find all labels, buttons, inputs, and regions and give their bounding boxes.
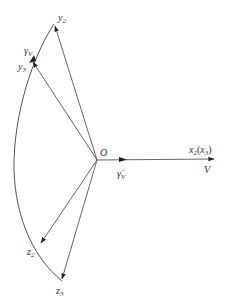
x2-x3-label: x2(x3) <box>188 144 212 157</box>
y3-label: y3 <box>17 61 26 74</box>
ray-z3 <box>62 160 97 279</box>
origin-label: O <box>100 147 107 158</box>
rotation-diagram: O y2 γV y3 z2 z3 x2(x3) V γ̇V <box>0 0 228 305</box>
ray-z2 <box>41 160 97 243</box>
ray-y2 <box>55 26 97 160</box>
ray-x2 <box>97 159 214 160</box>
angular-rate-arrow-icon <box>119 157 127 162</box>
y2-label: y2 <box>57 12 66 25</box>
z2-label: z2 <box>26 246 35 259</box>
gamma-dot-v-label: γ̇V <box>117 168 126 181</box>
z3-label: z3 <box>55 285 64 298</box>
ray-y3 <box>33 62 97 160</box>
gamma-v-label: γV <box>24 45 33 58</box>
velocity-label: V <box>204 164 212 175</box>
